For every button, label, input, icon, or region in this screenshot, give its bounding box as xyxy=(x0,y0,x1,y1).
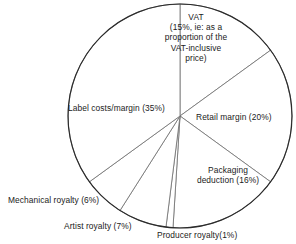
slice-label-vat-line1: VAT xyxy=(188,12,203,22)
slice-label-vat-line2: (15%, ie: as a xyxy=(170,22,222,32)
slice-label-artist-royalty: Artist royalty (7%) xyxy=(64,221,132,231)
slice-label-packaging-line2: deduction (16%) xyxy=(197,175,259,185)
slice-label-vat-line5: price) xyxy=(185,53,206,63)
slice-label-packaging-line1: Packaging xyxy=(208,165,248,175)
slice-label-packaging-deduction: Packaging deduction (16%) xyxy=(186,165,270,185)
pie-chart: VAT (15%, ie: as a proportion of the VAT… xyxy=(0,0,296,244)
slice-label-label-costs-margin: Label costs/margin (35%) xyxy=(68,103,165,113)
slice-label-vat-line4: VAT-inclusive xyxy=(171,43,222,53)
slice-label-producer-royalty: Producer royalty(1%) xyxy=(157,230,237,240)
slice-label-vat-line3: proportion of the xyxy=(165,32,227,42)
slice-label-mechanical-royalty: Mechanical royalty (6%) xyxy=(8,195,99,205)
slice-label-retail-margin: Retail margin (20%) xyxy=(196,112,272,122)
slice-label-vat: VAT (15%, ie: as a proportion of the VAT… xyxy=(150,12,242,63)
